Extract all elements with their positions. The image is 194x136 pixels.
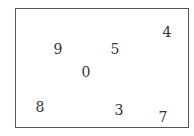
digit-7: 7 <box>159 110 168 124</box>
digit-4: 4 <box>163 25 172 39</box>
digit-8: 8 <box>36 100 45 114</box>
digit-3: 3 <box>115 103 124 117</box>
digit-9: 9 <box>54 42 63 56</box>
digit-0: 0 <box>82 65 91 79</box>
digit-5: 5 <box>111 42 120 56</box>
